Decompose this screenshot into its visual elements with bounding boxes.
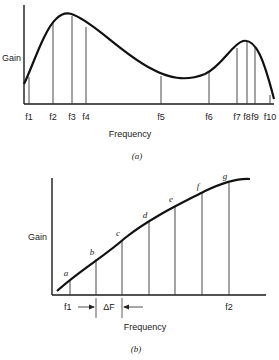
figure-b: Gain abcdefg f1 ΔF f2 Frequency (b) bbox=[28, 171, 266, 354]
gain-curve-b bbox=[57, 179, 250, 291]
arrow-left-icon bbox=[123, 305, 143, 310]
figure-a: Gain f1f2f3f4f5f6f7f8f9f10 Frequency (a) bbox=[2, 5, 276, 161]
point-label: d bbox=[143, 210, 148, 220]
gain-curve-a bbox=[24, 13, 274, 99]
f1-label-b: f1 bbox=[64, 302, 72, 312]
caption-a: (a) bbox=[132, 151, 143, 161]
frequency-lines-a bbox=[29, 16, 270, 104]
x-axis-label-a: Frequency bbox=[109, 129, 152, 139]
tick-label: f5 bbox=[157, 112, 165, 122]
point-label: f bbox=[197, 181, 201, 191]
caption-b: (b) bbox=[131, 344, 142, 354]
tick-label: f7 bbox=[233, 112, 241, 122]
sample-lines-b bbox=[70, 183, 229, 295]
tick-labels-a: f1f2f3f4f5f6f7f8f9f10 bbox=[25, 112, 276, 122]
point-label: b bbox=[90, 247, 95, 257]
y-axis-label-b: Gain bbox=[28, 232, 47, 242]
x-axis-label-b: Frequency bbox=[124, 322, 167, 332]
y-axis-label-a: Gain bbox=[2, 53, 21, 63]
tick-label: f1 bbox=[25, 112, 33, 122]
arrow-right-icon bbox=[78, 305, 95, 310]
tick-label: f10 bbox=[264, 112, 277, 122]
point-label: e bbox=[169, 194, 173, 204]
point-label: g bbox=[223, 171, 228, 181]
f2-label-b: f2 bbox=[225, 302, 233, 312]
diagram: Gain f1f2f3f4f5f6f7f8f9f10 Frequency (a)… bbox=[0, 0, 279, 360]
tick-label: f6 bbox=[205, 112, 213, 122]
tick-label: f9 bbox=[251, 112, 259, 122]
tick-label: f2 bbox=[49, 112, 57, 122]
tick-label: f8 bbox=[243, 112, 251, 122]
tick-label: f4 bbox=[82, 112, 90, 122]
delta-f-label: ΔF bbox=[103, 302, 115, 312]
tick-label: f3 bbox=[68, 112, 76, 122]
point-label: a bbox=[64, 268, 69, 278]
point-label: c bbox=[116, 228, 120, 238]
